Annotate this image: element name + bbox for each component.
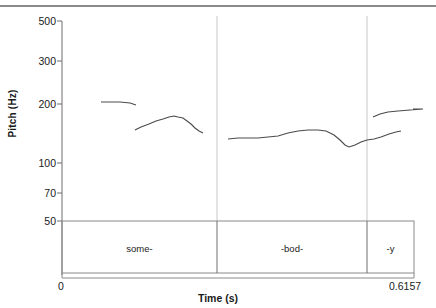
- pitch-curve-segment-2: [135, 116, 203, 133]
- tier-cell-label-1: some-: [62, 244, 217, 254]
- pitch-contour-figure: Pitch (Hz) 500 300 200 100 70 50 some- -…: [0, 0, 436, 308]
- plot-canvas: [0, 0, 436, 308]
- tier-cell-label-2: -bod-: [217, 244, 367, 254]
- x-axis-title: Time (s): [0, 292, 436, 304]
- x-tick-label-right: 0.6157: [389, 281, 421, 291]
- tier-cell-label-3: -y: [367, 244, 414, 254]
- x-tick-label-left: 0: [58, 281, 64, 291]
- pitch-curve-segment-1: [101, 102, 136, 105]
- pitch-curve-segment-4: [373, 109, 423, 117]
- pitch-curve-segment-3: [228, 130, 401, 147]
